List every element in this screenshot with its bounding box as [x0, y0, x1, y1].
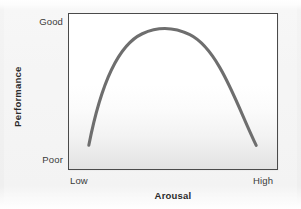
chart-screenshot: Good Poor Performance Low High Arousal — [0, 0, 301, 209]
x-axis-title: Arousal — [68, 191, 278, 201]
yerkes-dodson-chart: Good Poor Performance Low High Arousal — [0, 0, 301, 209]
x-axis-tick-label-low: Low — [70, 176, 88, 186]
x-axis-tick-label-high: High — [253, 176, 273, 186]
y-axis-tick-label-poor: Poor — [42, 155, 63, 165]
y-axis-title: Performance — [13, 47, 23, 147]
y-axis-tick-label-good: Good — [39, 17, 63, 27]
performance-curve-path — [89, 28, 256, 145]
performance-curve-svg — [69, 14, 277, 169]
plot-area — [68, 13, 278, 170]
